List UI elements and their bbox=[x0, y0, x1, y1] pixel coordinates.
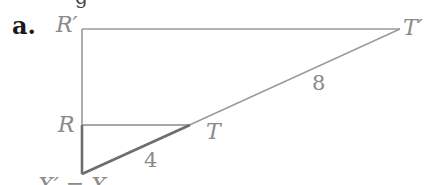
label-r: R bbox=[58, 114, 75, 136]
length-t-t-prime: 8 bbox=[312, 73, 325, 94]
label-t: T bbox=[206, 121, 221, 143]
label-x-prime-equals-x: X′ = X bbox=[38, 175, 107, 185]
label-r-prime: R′ bbox=[56, 14, 78, 36]
label-t-prime: T′ bbox=[403, 17, 423, 39]
segment-x-t-bold bbox=[82, 125, 190, 174]
dilation-diagram: g a. R′ T′ R T X′ = X 4 8 bbox=[0, 0, 439, 185]
length-xt: 4 bbox=[144, 150, 157, 171]
